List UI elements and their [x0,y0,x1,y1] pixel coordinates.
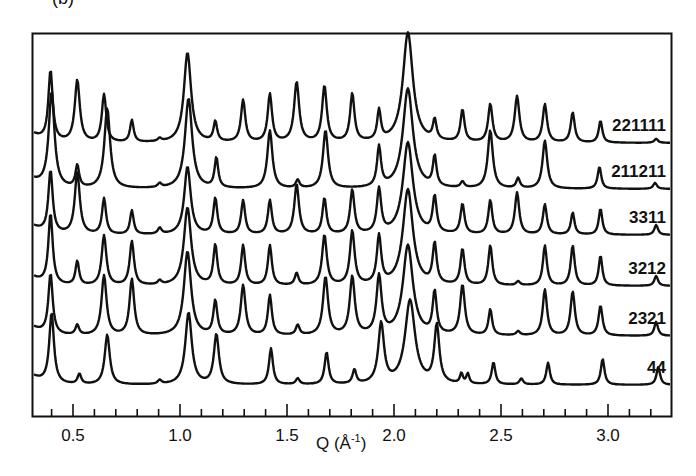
curve-3212 [34,189,670,286]
x-tick-label: 1.5 [275,426,299,445]
series-label-2321: 2321 [628,309,666,328]
curve-221111 [34,32,670,142]
series-label-3311: 3311 [629,208,666,227]
x-tick-label: 2.5 [489,426,513,445]
x-tick-label: 2.0 [382,426,406,445]
x-tick-label: 1.0 [168,426,192,445]
x-tick-label: 3.0 [596,426,620,445]
x-tick-label: 0.5 [61,426,85,445]
diffraction-curves [34,32,670,384]
x-axis-ticks [52,404,651,416]
x-axis-label: Q (Å-1) [316,432,366,453]
xrd-chart: 0.51.01.52.02.53.0 221111211211331132122… [0,0,696,476]
series-labels: 22111121121133113212232144 [611,116,666,377]
series-label-44: 44 [647,358,666,377]
series-label-221111: 221111 [612,116,666,135]
series-label-211211: 211211 [611,162,666,181]
series-label-3212: 3212 [628,259,666,278]
